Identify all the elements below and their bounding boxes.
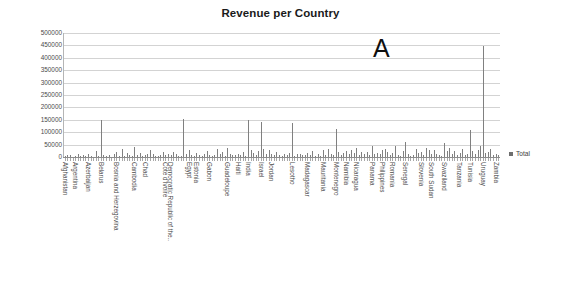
x-axis-tick (496, 158, 497, 161)
x-axis-tick (261, 158, 262, 161)
x-axis-tick (354, 158, 355, 161)
x-axis-tick (202, 158, 203, 161)
x-axis-tick (183, 158, 184, 161)
x-axis-tick (400, 158, 401, 161)
x-axis-tick (346, 158, 347, 161)
x-axis-tick (328, 158, 329, 161)
x-axis-tick (287, 158, 288, 161)
x-axis-tick (441, 158, 442, 161)
x-axis-tick (284, 158, 285, 161)
x-axis-tick (98, 158, 99, 161)
y-axis-tick-label: 250000 (4, 92, 62, 98)
x-axis-tick (101, 158, 102, 161)
bar (405, 142, 406, 157)
x-axis-tick (310, 158, 311, 161)
x-axis-tick (418, 158, 419, 161)
x-axis-tick (372, 158, 373, 161)
x-axis-tick (364, 158, 365, 161)
x-axis-tick-label: Panama (368, 162, 374, 185)
x-axis-tick (392, 158, 393, 161)
x-axis-tick-label: South Sudan (428, 162, 434, 198)
x-axis-tick (395, 158, 396, 161)
x-axis-tick-label: Zambia (492, 162, 498, 183)
x-axis-tick (67, 158, 68, 161)
x-axis-tick (300, 158, 301, 161)
x-axis-tick (207, 158, 208, 161)
bar (434, 150, 435, 157)
x-axis-tick-label: Tanzania (456, 162, 462, 187)
y-axis-labels: 5000004500004000003500003000002500002000… (0, 0, 62, 283)
x-axis-tick (292, 158, 293, 161)
legend-swatch-total (509, 152, 513, 156)
x-axis-tick (493, 158, 494, 161)
x-axis-tick (65, 158, 66, 161)
x-axis-tick (467, 158, 468, 161)
x-axis-tick (452, 158, 453, 161)
x-axis-tick (312, 158, 313, 161)
x-axis-tick (248, 158, 249, 161)
x-axis-tick-label: Swaziland (441, 162, 447, 191)
x-axis-tick (217, 158, 218, 161)
x-axis-tick (380, 158, 381, 161)
x-axis-tick (269, 158, 270, 161)
x-axis-tick (302, 158, 303, 161)
x-axis-tick (454, 158, 455, 161)
bar (426, 148, 427, 157)
x-axis-tick (271, 158, 272, 161)
x-axis-tick (439, 158, 440, 161)
bar (382, 150, 383, 157)
x-axis-tick (134, 158, 135, 161)
x-axis-tick (398, 158, 399, 161)
legend: Total (509, 150, 530, 157)
x-axis-tick-label: Haiti (234, 162, 240, 175)
x-axis-tick (470, 158, 471, 161)
chart-container: Revenue per Country 50000045000040000035… (0, 0, 561, 283)
x-axis-tick (232, 158, 233, 161)
x-axis-tick-label: Gabon (206, 162, 212, 181)
x-axis-tick (498, 158, 499, 161)
x-axis-tick (460, 158, 461, 161)
x-axis-labels: AfghanistanArgentinaAzerbaijanBelarusBos… (64, 162, 500, 280)
y-axis-tick-label: 500000 (4, 30, 62, 36)
bar (323, 150, 324, 157)
x-axis-tick-label: Slovenia (417, 162, 423, 186)
x-axis-tick (447, 158, 448, 161)
x-axis-tick (103, 158, 104, 161)
x-axis-tick (488, 158, 489, 161)
x-axis-tick (147, 158, 148, 161)
x-axis-tick (331, 158, 332, 161)
x-axis-tick (127, 158, 128, 161)
x-axis-tick (341, 158, 342, 161)
bar (416, 149, 417, 157)
x-axis-tick (181, 158, 182, 161)
y-axis-tick-label: 100000 (4, 129, 62, 135)
x-axis-tick (91, 158, 92, 161)
x-axis-tick (431, 158, 432, 161)
bar (269, 150, 270, 157)
x-axis-tick (490, 158, 491, 161)
x-axis-tick (263, 158, 264, 161)
x-axis-tick (238, 158, 239, 161)
x-axis-tick-label: Cambodia (131, 162, 137, 191)
bar (292, 123, 293, 157)
bar (183, 119, 184, 157)
x-axis-tick (83, 158, 84, 161)
x-axis-tick-label: Namibia (343, 162, 349, 185)
x-axis-tick (253, 158, 254, 161)
x-axis-tick-label: Belarus (98, 162, 104, 183)
x-axis-tick-label: Azerbaijan (85, 162, 91, 192)
x-axis-tick (214, 158, 215, 161)
x-axis-tick (382, 158, 383, 161)
y-axis-tick-label: 200000 (4, 104, 62, 110)
bars-layer (64, 33, 500, 157)
x-axis-tick (374, 158, 375, 161)
x-axis-tick (78, 158, 79, 161)
x-axis-tick (351, 158, 352, 161)
x-axis-tick (472, 158, 473, 161)
x-axis-tick (449, 158, 450, 161)
x-axis-tick (457, 158, 458, 161)
x-axis-tick (204, 158, 205, 161)
bar (328, 149, 329, 157)
bar (336, 129, 337, 157)
x-axis-tick-label: Mauritania (319, 162, 325, 191)
